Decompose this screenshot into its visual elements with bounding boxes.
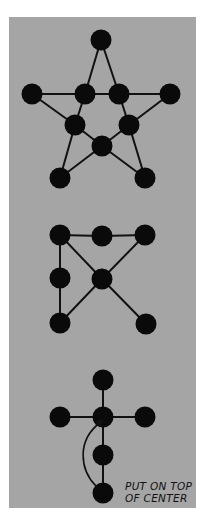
- node-lower: [93, 445, 114, 466]
- node-bottom-left: [50, 313, 71, 334]
- node-center: [93, 407, 114, 428]
- square-puzzle: [50, 225, 157, 335]
- node-left: [50, 407, 71, 428]
- node-top: [93, 370, 114, 391]
- node-top: [91, 30, 112, 51]
- star-puzzle: [22, 30, 181, 189]
- annotation-line-2: OF CENTER: [125, 492, 188, 504]
- node-bottom-right: [135, 168, 156, 189]
- node-top-mid: [92, 226, 113, 247]
- node-bottom-right: [136, 314, 157, 335]
- node-mid-right: [119, 115, 140, 136]
- annotation-line-1: PUT ON TOP: [125, 480, 193, 492]
- node-bottom-left: [50, 168, 71, 189]
- node-outer-right: [160, 84, 181, 105]
- node-inner-left: [75, 84, 96, 105]
- node-right: [135, 407, 156, 428]
- node-top-left: [50, 225, 71, 246]
- node-outer-left: [22, 84, 43, 105]
- node-center: [92, 269, 113, 290]
- node-center: [92, 136, 113, 157]
- node-mid-left: [50, 268, 71, 289]
- node-mid-left: [65, 115, 86, 136]
- puzzle-diagram: PUT ON TOP OF CENTER: [0, 0, 211, 521]
- node-inner-right: [109, 84, 130, 105]
- node-top-right: [135, 225, 156, 246]
